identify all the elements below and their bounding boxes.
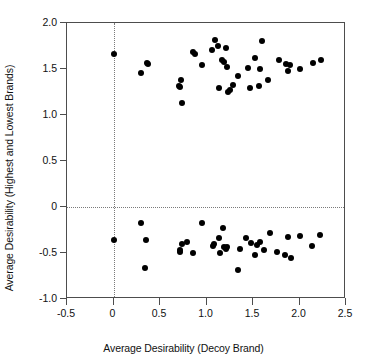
- x-tick-label: -0.5: [41, 307, 91, 319]
- y-tick-label: 0: [0, 200, 57, 212]
- x-tick-mark: [66, 298, 67, 305]
- y-tick-label: 2.0: [0, 16, 57, 28]
- x-axis-label: Average Desirability (Decoy Brand): [0, 342, 367, 354]
- data-point: [259, 38, 265, 44]
- data-point: [256, 83, 262, 89]
- data-point: [178, 77, 184, 83]
- data-point: [297, 233, 303, 239]
- data-point: [288, 255, 294, 261]
- data-point: [220, 225, 226, 231]
- data-point: [276, 57, 282, 63]
- data-point: [318, 57, 324, 63]
- data-point: [215, 43, 221, 49]
- x-tick-mark: [252, 298, 253, 305]
- data-point: [216, 85, 222, 91]
- data-point: [245, 65, 251, 71]
- data-point: [257, 66, 263, 72]
- data-point: [199, 220, 205, 226]
- data-point: [257, 239, 263, 245]
- vertical-reference-line: [114, 23, 115, 297]
- data-point: [224, 64, 230, 70]
- data-point: [217, 250, 223, 256]
- data-point: [265, 77, 271, 83]
- x-tick-mark: [113, 298, 114, 305]
- data-point: [199, 62, 205, 68]
- x-tick-mark: [206, 298, 207, 305]
- data-point: [142, 265, 148, 271]
- data-point: [285, 68, 291, 74]
- data-point: [310, 60, 316, 66]
- x-tick-label: 1.5: [227, 307, 277, 319]
- data-point: [274, 249, 280, 255]
- data-point: [267, 230, 273, 236]
- scatter-plot-figure: Average Desirability (Highest and Lowest…: [0, 0, 367, 356]
- x-tick-label: 0.5: [134, 307, 184, 319]
- y-tick-label: 1.0: [0, 108, 57, 120]
- data-point: [177, 247, 183, 253]
- data-point: [190, 250, 196, 256]
- data-point: [211, 241, 217, 247]
- data-point: [179, 100, 185, 106]
- x-tick-label: 2.0: [274, 307, 324, 319]
- data-point: [223, 45, 229, 51]
- y-tick-label: 0.5: [0, 154, 57, 166]
- x-tick-label: 0: [88, 307, 138, 319]
- data-point: [235, 267, 241, 273]
- x-tick-mark: [159, 298, 160, 305]
- data-point: [111, 237, 117, 243]
- data-point: [143, 237, 149, 243]
- data-point: [247, 85, 253, 91]
- data-point: [224, 244, 230, 250]
- y-tick-label: -1.0: [0, 292, 57, 304]
- data-point: [216, 235, 222, 241]
- data-point: [111, 51, 117, 57]
- horizontal-reference-line: [67, 207, 344, 208]
- data-point: [177, 84, 183, 90]
- y-tick-label: -0.5: [0, 246, 57, 258]
- data-point: [297, 66, 303, 72]
- x-tick-mark: [345, 298, 346, 305]
- data-point: [235, 73, 241, 79]
- data-point: [317, 232, 323, 238]
- data-point: [252, 55, 258, 61]
- x-tick-mark: [299, 298, 300, 305]
- data-point: [192, 51, 198, 57]
- data-point: [230, 82, 236, 88]
- data-point: [227, 87, 233, 93]
- data-point: [287, 62, 293, 68]
- data-point: [209, 47, 215, 53]
- data-point: [309, 243, 315, 249]
- plot-area: [66, 22, 345, 298]
- data-point: [145, 61, 151, 67]
- data-point: [252, 252, 258, 258]
- data-point: [184, 239, 190, 245]
- data-point: [237, 246, 243, 252]
- data-point: [282, 252, 288, 258]
- x-tick-label: 2.5: [320, 307, 367, 319]
- data-point: [261, 247, 267, 253]
- x-tick-label: 1.0: [181, 307, 231, 319]
- data-point: [285, 234, 291, 240]
- data-point: [138, 70, 144, 76]
- y-tick-label: 1.5: [0, 62, 57, 74]
- data-point: [138, 220, 144, 226]
